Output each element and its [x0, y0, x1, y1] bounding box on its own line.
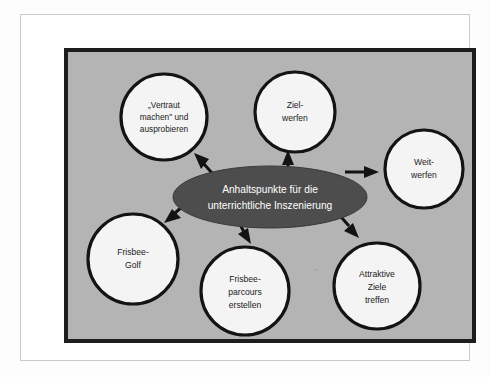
node-frisbee-golf-line2: Golf: [125, 260, 141, 270]
scan-speck: [315, 269, 317, 271]
node-attraktive-ziele-line1: Attraktive: [359, 269, 395, 279]
node-frisbee-parcours-line2: parcours: [228, 287, 261, 297]
node-attraktive-ziele-line2: Ziele: [368, 282, 387, 292]
node-attraktive-ziele-line3: treffen: [365, 295, 389, 305]
node-frisbee-parcours-line3: erstellen: [229, 300, 262, 310]
node-frisbee-parcours-erstellen[interactable]: Frisbee- parcours erstellen: [201, 247, 289, 335]
node-weitwerfen-shape: [385, 130, 463, 208]
center-node[interactable]: Anhaltspunkte für die unterrichtliche In…: [173, 166, 367, 228]
node-zielwerfen-shape: [255, 72, 335, 152]
node-zielwerfen-line2: werfen: [281, 113, 308, 123]
node-attraktive-ziele-treffen[interactable]: Attraktive Ziele treffen: [334, 243, 420, 329]
node-vertraut-machen-ausprobieren[interactable]: „Vertraut machen" und ausprobieren: [121, 74, 207, 160]
node-frisbee-parcours-line1: Frisbee-: [229, 274, 261, 284]
node-vertraut-machen-line1: „Vertraut: [148, 100, 181, 110]
center-node-line2: unterrichtliche Inszenierung: [208, 200, 333, 211]
node-frisbee-golf[interactable]: Frisbee- Golf: [88, 214, 178, 304]
node-vertraut-machen-line3: ausprobieren: [140, 124, 189, 134]
node-zielwerfen[interactable]: Ziel- werfen: [255, 72, 335, 152]
concept-map-svg: Anhaltspunkte für die unterrichtliche In…: [68, 52, 472, 339]
scanned-page-background: Anhaltspunkte für die unterrichtliche In…: [0, 0, 490, 377]
node-vertraut-machen-line2: machen" und: [140, 112, 189, 122]
node-weitwerfen-line2: werfen: [410, 170, 437, 180]
node-weitwerfen-line1: Weit-: [414, 157, 434, 167]
node-zielwerfen-line1: Ziel-: [287, 100, 304, 110]
center-node-shape: [173, 166, 367, 228]
page-frame: Anhaltspunkte für die unterrichtliche In…: [20, 14, 470, 361]
center-node-line1: Anhaltspunkte für die: [222, 184, 318, 195]
node-frisbee-golf-shape: [88, 214, 178, 304]
diagram-panel: Anhaltspunkte für die unterrichtliche In…: [64, 48, 476, 343]
arrow-to-weitwerfen: [345, 166, 379, 178]
node-frisbee-golf-line1: Frisbee-: [117, 247, 149, 257]
node-weitwerfen[interactable]: Weit- werfen: [385, 130, 463, 208]
